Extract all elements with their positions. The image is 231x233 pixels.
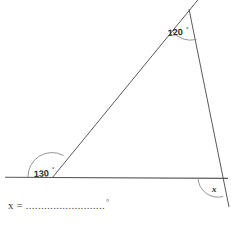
- angle-label-130-degree: °: [52, 166, 55, 172]
- answer-equals-sign: =: [17, 199, 23, 211]
- angle-label-120-degree: °: [186, 26, 189, 32]
- answer-degree-symbol: °: [106, 198, 109, 207]
- answer-variable: x: [8, 199, 14, 211]
- answer-prompt: x = .......................... °: [8, 199, 109, 211]
- answer-blank-dots[interactable]: ..........................: [26, 199, 105, 211]
- angle-arc-x: [198, 178, 223, 197]
- triangle-side-left: [52, 0, 206, 178]
- angle-label-130: 130: [34, 168, 50, 179]
- triangle-side-right: [189, 9, 229, 207]
- angle-label-x: x: [211, 184, 217, 194]
- angle-label-120: 120: [167, 27, 183, 38]
